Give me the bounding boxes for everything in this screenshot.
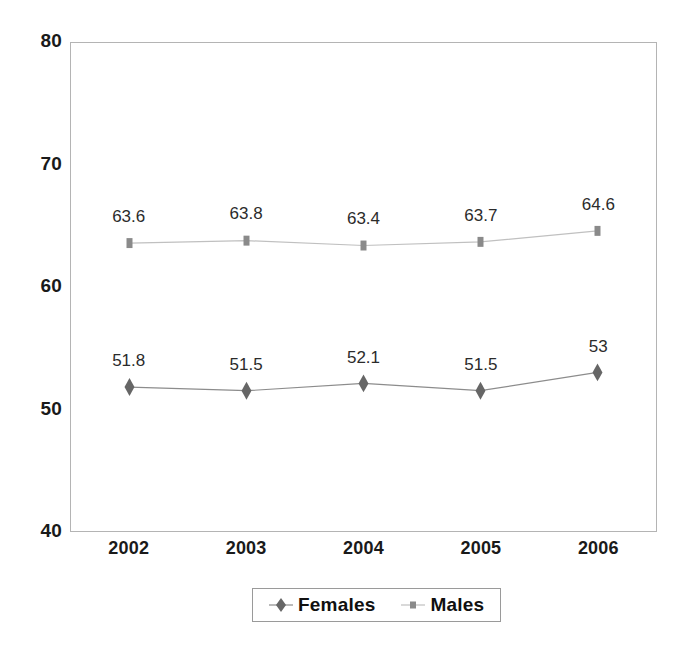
- legend-entry-males[interactable]: Males: [401, 594, 484, 616]
- diamond-marker-icon: [593, 363, 603, 381]
- data-label-females-2006: 53: [589, 337, 608, 357]
- data-label-males-2003: 63.8: [230, 204, 263, 224]
- series-males: [127, 226, 601, 251]
- x-axis-tick-2005: 2005: [460, 538, 501, 559]
- y-axis-tick-50: 50: [24, 398, 62, 420]
- diamond-marker-icon: [125, 378, 135, 396]
- legend-label-males: Males: [430, 594, 484, 616]
- series-canvas: [71, 43, 656, 531]
- data-label-females-2005: 51.5: [464, 355, 497, 375]
- data-label-males-2006: 64.6: [582, 195, 615, 215]
- chart-legend[interactable]: FemalesMales: [252, 588, 501, 622]
- square-marker-icon: [244, 236, 250, 246]
- data-label-females-2002: 51.8: [112, 351, 145, 371]
- data-label-females-2004: 52.1: [347, 348, 380, 368]
- square-marker-icon: [595, 226, 601, 236]
- square-marker-icon: [127, 238, 133, 248]
- diamond-marker-icon: [242, 382, 252, 400]
- legend-label-females: Females: [298, 594, 375, 616]
- data-label-males-2002: 63.6: [112, 207, 145, 227]
- x-axis-tick-2003: 2003: [226, 538, 267, 559]
- x-axis-tick-2004: 2004: [343, 538, 384, 559]
- y-axis-tick-40: 40: [24, 520, 62, 542]
- y-axis-tick-70: 70: [24, 153, 62, 175]
- y-axis-tick-80: 80: [24, 30, 62, 52]
- square-marker-icon: [361, 241, 367, 251]
- plot-area: [70, 42, 657, 532]
- legend-entry-females[interactable]: Females: [269, 594, 375, 616]
- data-label-males-2004: 63.4: [347, 209, 380, 229]
- x-axis-tick-2006: 2006: [578, 538, 619, 559]
- x-axis-tick-2002: 2002: [108, 538, 149, 559]
- square-marker-icon: [401, 598, 425, 612]
- y-axis-tick-60: 60: [24, 275, 62, 297]
- line-chart: 4050607080 51.851.552.151.55363.663.863.…: [0, 0, 694, 648]
- series-females: [125, 363, 603, 399]
- data-label-females-2003: 51.5: [230, 355, 263, 375]
- data-label-males-2005: 63.7: [464, 206, 497, 226]
- square-marker-icon: [478, 237, 484, 247]
- diamond-marker-icon: [476, 382, 486, 400]
- diamond-marker-icon: [269, 598, 293, 612]
- diamond-marker-icon: [359, 374, 369, 392]
